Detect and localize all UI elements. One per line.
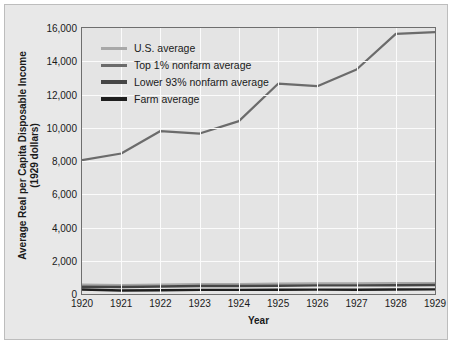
x-axis-tick-label: 1921 <box>110 298 132 309</box>
y-axis-title-line1: Average Real per Capita Disposable Incom… <box>17 51 28 260</box>
x-axis-tick-label: 1923 <box>189 298 211 309</box>
x-axis-tick-label: 1926 <box>306 298 328 309</box>
y-axis-tick-label: 2,000 <box>31 255 77 266</box>
y-axis-tick-label: 14,000 <box>31 56 77 67</box>
chart-figure: Average Real per Capita Disposable Incom… <box>4 4 448 340</box>
y-axis-tick-label: 16,000 <box>31 23 77 34</box>
legend-item-label: Farm average <box>134 93 199 105</box>
legend-item-label: U.S. average <box>134 42 195 54</box>
legend-item: Farm average <box>101 92 269 106</box>
x-axis-tick-label: 1928 <box>385 298 407 309</box>
gridline-horizontal <box>82 194 435 195</box>
gridline-vertical <box>396 28 397 294</box>
y-axis-tick-label: 6,000 <box>31 189 77 200</box>
gridline-horizontal <box>82 161 435 162</box>
legend-item-label: Lower 93% nonfarm average <box>134 76 269 88</box>
x-axis-tick-label: 1927 <box>345 298 367 309</box>
x-axis-tick-label: 1925 <box>267 298 289 309</box>
x-axis-tick-label: 1920 <box>71 298 93 309</box>
gridline-horizontal <box>82 261 435 262</box>
gridline-horizontal <box>82 228 435 229</box>
y-axis-tick-label: 10,000 <box>31 122 77 133</box>
x-axis-tick-labels: 1920192119221923192419251926192719281929 <box>81 298 436 312</box>
legend-swatch-icon <box>101 64 127 67</box>
y-axis-tick-label: 12,000 <box>31 89 77 100</box>
series-line <box>82 289 435 290</box>
legend-swatch-icon <box>101 80 127 84</box>
y-axis-tick-labels: 02,0004,0006,0008,00010,00012,00014,0001… <box>29 27 77 295</box>
gridline-vertical <box>357 28 358 294</box>
x-axis-tick-label: 1929 <box>424 298 446 309</box>
legend-swatch-icon <box>101 47 127 50</box>
legend-item: Lower 93% nonfarm average <box>101 75 269 89</box>
chart-legend: U.S. averageTop 1% nonfarm averageLower … <box>101 41 269 106</box>
legend-swatch-icon <box>101 97 127 101</box>
y-axis-tick-label: 4,000 <box>31 222 77 233</box>
gridline-vertical <box>317 28 318 294</box>
legend-item: Top 1% nonfarm average <box>101 58 269 72</box>
x-axis-tick-label: 1922 <box>149 298 171 309</box>
x-axis-tick-label: 1924 <box>228 298 250 309</box>
gridline-horizontal <box>82 128 435 129</box>
gridline-vertical <box>278 28 279 294</box>
legend-item-label: Top 1% nonfarm average <box>134 59 251 71</box>
legend-item: U.S. average <box>101 41 269 55</box>
x-axis-title: Year <box>81 315 436 326</box>
y-axis-tick-label: 8,000 <box>31 156 77 167</box>
